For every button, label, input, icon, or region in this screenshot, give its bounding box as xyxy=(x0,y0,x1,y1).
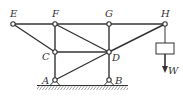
label-B: B xyxy=(114,75,122,86)
member-EC xyxy=(13,24,55,52)
label-D: D xyxy=(111,52,120,63)
node-A xyxy=(53,78,57,82)
node-C xyxy=(53,50,57,54)
truss-diagram: E F G H C D A B W xyxy=(0,0,183,105)
ground xyxy=(37,86,128,91)
label-H: H xyxy=(160,8,170,19)
node-D xyxy=(107,50,111,54)
label-G: G xyxy=(105,8,113,19)
member-FD xyxy=(55,24,109,52)
node-B xyxy=(107,78,111,82)
label-W: W xyxy=(168,65,179,76)
label-C: C xyxy=(42,51,50,62)
node-G xyxy=(107,22,111,26)
label-E: E xyxy=(9,8,18,19)
node-F xyxy=(53,22,57,26)
label-F: F xyxy=(51,8,60,19)
member-AD xyxy=(55,52,109,80)
node-E xyxy=(11,22,15,26)
label-A: A xyxy=(41,75,49,86)
truss-members xyxy=(13,24,165,80)
node-H xyxy=(163,22,167,26)
